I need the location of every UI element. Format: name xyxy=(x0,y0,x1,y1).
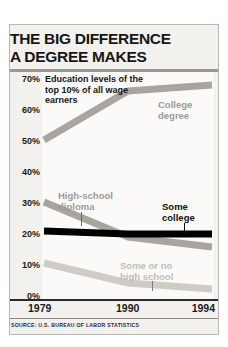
chart-subtitle: Education levels of the top 10% of all w… xyxy=(45,74,145,106)
title-line-1: THE BIG DIFFERENCE xyxy=(10,30,218,48)
y-tick-10: 10% xyxy=(22,260,40,270)
x-axis-labels: 1979 1990 1994 xyxy=(10,302,218,317)
label-college-degree: College degree xyxy=(158,100,192,122)
label-high-school-diploma-line2: diploma xyxy=(58,202,113,213)
y-tick-50: 50% xyxy=(22,136,40,146)
y-tick-70: 70% xyxy=(22,74,40,84)
label-college-degree-line2: degree xyxy=(158,111,192,122)
chart-figure: THE BIG DIFFERENCE A DEGREE MAKES 70% 60… xyxy=(0,0,228,347)
chart-title: THE BIG DIFFERENCE A DEGREE MAKES xyxy=(10,30,218,68)
x-tick-1994: 1994 xyxy=(192,302,215,314)
x-axis-line xyxy=(10,299,218,301)
source-divider xyxy=(10,318,218,319)
source-note: SOURCE: U.S. BUREAU OF LABOR STATISTICS xyxy=(11,322,139,328)
leader-line-some-or-no-high-school xyxy=(152,281,153,291)
label-some-or-no-high-school-line2: high school xyxy=(120,272,173,283)
y-tick-40: 40% xyxy=(22,167,40,177)
y-tick-60: 60% xyxy=(22,105,40,115)
y-tick-30: 30% xyxy=(22,198,40,208)
title-line-2: A DEGREE MAKES xyxy=(10,48,218,66)
leader-line-some-college xyxy=(184,223,185,234)
y-tick-20: 20% xyxy=(22,229,40,239)
label-some-college: Some college xyxy=(162,202,195,224)
label-some-college-line2: college xyxy=(162,213,195,224)
leader-line-high-school-diploma xyxy=(81,212,82,226)
y-axis-labels: 70% 60% 50% 40% 30% 20% 10% 0% xyxy=(10,72,42,299)
line-some-college xyxy=(44,231,212,234)
label-some-or-no-high-school: Some or no high school xyxy=(120,261,173,283)
label-high-school-diploma: High-school diploma xyxy=(58,191,113,213)
x-tick-1979: 1979 xyxy=(28,302,51,314)
x-tick-1990: 1990 xyxy=(116,302,139,314)
